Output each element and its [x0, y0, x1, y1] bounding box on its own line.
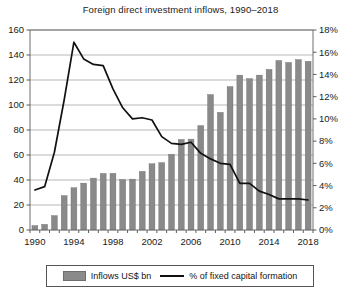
bar-1996 — [91, 178, 97, 230]
bar-1990 — [32, 226, 38, 230]
x-tick-label-1994: 1994 — [63, 236, 84, 247]
bar-2001 — [139, 171, 145, 230]
left-tick-label: 140 — [8, 49, 24, 60]
bar-2010 — [227, 87, 233, 230]
x-tick-label-2018: 2018 — [298, 236, 319, 247]
bar-2011 — [237, 75, 243, 230]
line-swatch-icon — [160, 275, 184, 277]
right-tick-label: 6% — [319, 158, 333, 169]
bar-2014 — [266, 69, 272, 230]
bar-2008 — [208, 95, 214, 230]
right-tick-label: 4% — [319, 180, 333, 191]
bar-2006 — [188, 139, 194, 230]
chart-legend: Inflows US$ bn % of fixed capital format… — [46, 265, 314, 287]
bar-2003 — [159, 163, 165, 230]
bar-1997 — [100, 174, 106, 231]
bar-2000 — [130, 179, 136, 230]
bar-1992 — [51, 216, 57, 230]
right-axis-ticks — [313, 30, 317, 230]
left-tick-label: 0 — [19, 224, 24, 235]
right-tick-label: 14% — [319, 69, 339, 80]
bar-1998 — [110, 173, 116, 230]
left-tick-label: 100 — [8, 99, 24, 110]
bar-1999 — [120, 180, 126, 231]
x-axis-labels: 19901994199820022006201020142018 — [24, 236, 318, 247]
bar-2017 — [295, 60, 301, 230]
left-axis-ticks — [27, 30, 31, 230]
right-tick-label: 0% — [319, 224, 333, 235]
bar-1993 — [61, 196, 67, 230]
legend-label-inflows: Inflows US$ bn — [91, 271, 152, 281]
left-tick-label: 40 — [13, 174, 24, 185]
bar-series — [32, 60, 311, 230]
legend-item-percent: % of fixed capital formation — [160, 271, 297, 281]
left-tick-label: 160 — [8, 24, 24, 35]
x-tick-label-2010: 2010 — [219, 236, 240, 247]
left-tick-label: 60 — [13, 149, 24, 160]
legend-item-inflows: Inflows US$ bn — [63, 271, 152, 281]
left-tick-label: 20 — [13, 199, 24, 210]
bar-2015 — [276, 61, 282, 231]
bar-2013 — [256, 75, 262, 230]
left-tick-label: 120 — [8, 74, 24, 85]
bar-1994 — [71, 188, 77, 230]
right-tick-label: 8% — [319, 135, 333, 146]
right-tick-label: 2% — [319, 202, 333, 213]
right-tick-label: 10% — [319, 113, 339, 124]
bar-1991 — [42, 224, 48, 230]
right-axis-labels: 0%2%4%6%8%10%12%14%16%18% — [319, 24, 339, 235]
x-tick-label-2014: 2014 — [259, 236, 280, 247]
bar-2009 — [217, 112, 223, 230]
page-title: Foreign direct investment inflows, 1990–… — [0, 4, 361, 15]
bar-2004 — [169, 154, 175, 230]
right-tick-label: 18% — [319, 24, 339, 35]
figure-container: Foreign direct investment inflows, 1990–… — [0, 0, 361, 306]
bar-1995 — [81, 183, 87, 230]
combo-chart: 020406080100120140160 0%2%4%6%8%10%12%14… — [0, 18, 361, 258]
bar-2016 — [286, 63, 292, 231]
plot-area: 020406080100120140160 0%2%4%6%8%10%12%14… — [0, 18, 361, 258]
right-tick-label: 12% — [319, 91, 339, 102]
x-tick-label-1990: 1990 — [24, 236, 45, 247]
left-axis-labels: 020406080100120140160 — [8, 24, 24, 235]
left-tick-label: 80 — [13, 124, 24, 135]
x-tick-label-1998: 1998 — [102, 236, 123, 247]
bar-2005 — [178, 140, 184, 231]
bar-2002 — [149, 164, 155, 230]
legend-label-percent: % of fixed capital formation — [189, 271, 297, 281]
right-tick-label: 16% — [319, 47, 339, 58]
x-tick-label-2002: 2002 — [141, 236, 162, 247]
bar-2012 — [247, 79, 253, 230]
bar-2007 — [198, 126, 204, 230]
x-tick-label-2006: 2006 — [180, 236, 201, 247]
bar-swatch-icon — [63, 271, 86, 281]
bar-2018 — [305, 61, 311, 230]
caption-remnant — [6, 296, 246, 306]
